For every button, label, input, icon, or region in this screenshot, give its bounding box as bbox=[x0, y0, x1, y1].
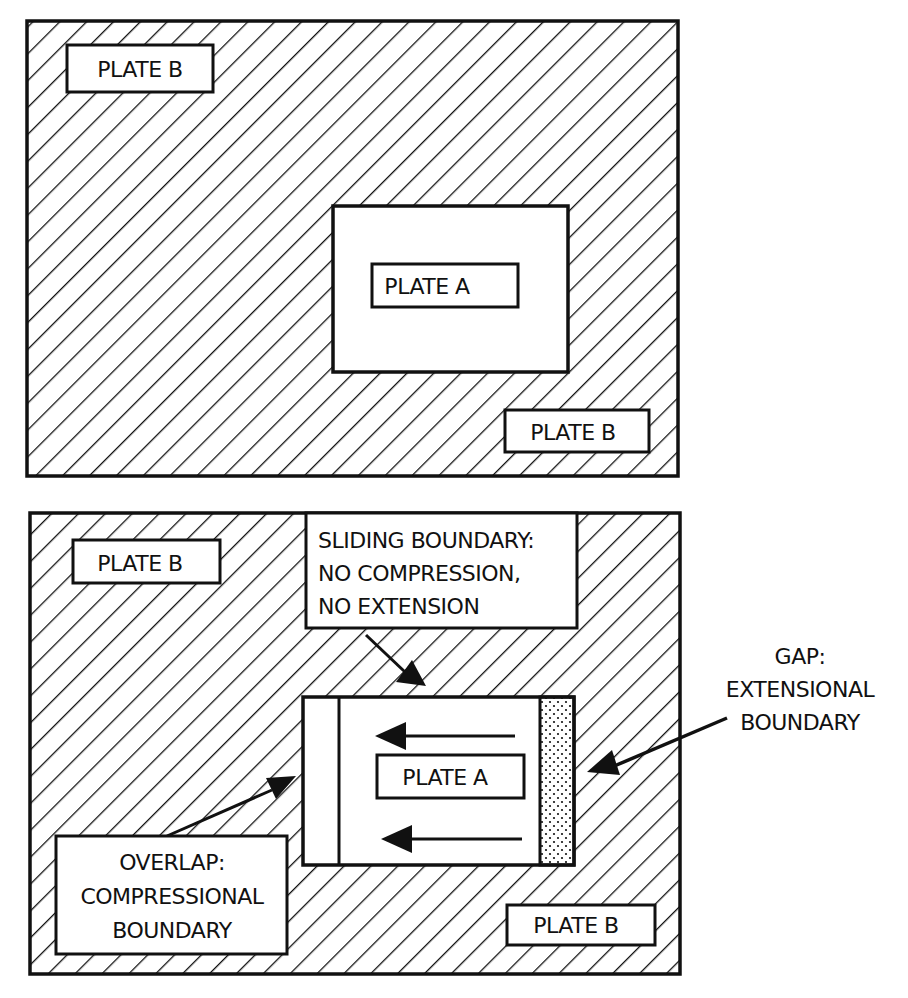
plate-a-label: PLATE A bbox=[402, 765, 488, 790]
plate-b-label-box-bottom-right: PLATE B bbox=[507, 905, 655, 945]
overlap-boundary-line-3: BOUNDARY bbox=[112, 918, 233, 943]
plate-a-label: PLATE A bbox=[384, 274, 470, 299]
plate-b-label-box-top-left: PLATE B bbox=[67, 45, 213, 92]
plate-a-label-box-top: PLATE A bbox=[372, 264, 518, 307]
overlap-boundary-line-2: COMPRESSIONAL bbox=[80, 884, 264, 909]
gap-stippled-strip bbox=[540, 697, 574, 865]
plate-b-label: PLATE B bbox=[97, 551, 182, 576]
sliding-boundary-line-1: SLIDING BOUNDARY: bbox=[318, 528, 534, 553]
plate-a-label-box-bottom: PLATE A bbox=[377, 755, 524, 798]
overlap-boundary-line-1: OVERLAP: bbox=[119, 850, 225, 875]
overlap-boundary-callout: OVERLAP: COMPRESSIONAL BOUNDARY bbox=[56, 836, 287, 954]
plate-b-label-box-bottom-left: PLATE B bbox=[73, 540, 220, 583]
sliding-boundary-line-3: NO EXTENSION bbox=[318, 594, 479, 619]
gap-boundary-callout: GAP: EXTENSIONAL BOUNDARY bbox=[726, 644, 876, 735]
gap-boundary-line-1: GAP: bbox=[775, 644, 826, 669]
gap-boundary-line-2: EXTENSIONAL bbox=[726, 677, 876, 702]
plate-b-label: PLATE B bbox=[97, 57, 182, 82]
top-panel: PLATE B PLATE A PLATE B bbox=[27, 21, 678, 476]
gap-boundary-line-3: BOUNDARY bbox=[740, 710, 861, 735]
sliding-boundary-line-2: NO COMPRESSION, bbox=[318, 561, 521, 586]
plate-b-label: PLATE B bbox=[530, 420, 615, 445]
plate-b-label: PLATE B bbox=[533, 913, 618, 938]
plate-boundaries-diagram: PLATE B PLATE A PLATE B PLATE B SLIDING … bbox=[0, 0, 908, 998]
bottom-panel: PLATE B SLIDING BOUNDARY: NO COMPRESSION… bbox=[30, 513, 727, 974]
sliding-boundary-callout: SLIDING BOUNDARY: NO COMPRESSION, NO EXT… bbox=[306, 513, 577, 628]
plate-b-label-box-top-right: PLATE B bbox=[505, 410, 649, 452]
